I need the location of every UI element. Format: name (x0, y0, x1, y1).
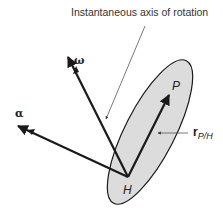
rigid-body-diagram (0, 0, 223, 208)
point-h-label: H (123, 183, 132, 197)
omega-label: ω (74, 54, 84, 67)
position-vector-label: rP/H (193, 125, 213, 141)
point-p-label: P (172, 79, 180, 93)
omega-vector (68, 57, 128, 177)
alpha-label: α (15, 107, 23, 120)
alpha-vector (18, 126, 128, 177)
position-vector-subscript: P/H (198, 131, 213, 141)
rigid-body-ellipse (91, 49, 208, 208)
axis-caption: Instantaneous axis of rotation (71, 6, 208, 18)
